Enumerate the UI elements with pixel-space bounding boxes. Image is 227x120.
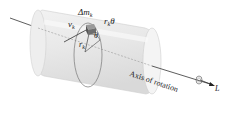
radius-label: rk (79, 41, 85, 50)
angle-theta-label: θ (94, 32, 98, 40)
velocity-label: vk (68, 20, 75, 30)
angular-momentum-label: L (215, 85, 219, 93)
rotating-cylinder-diagram: Δmk vk rkθ rk θ Axis of rotation L (0, 0, 227, 120)
arc-length-label: rkθ (104, 17, 115, 27)
mass-element-label: Δmk (78, 8, 92, 18)
